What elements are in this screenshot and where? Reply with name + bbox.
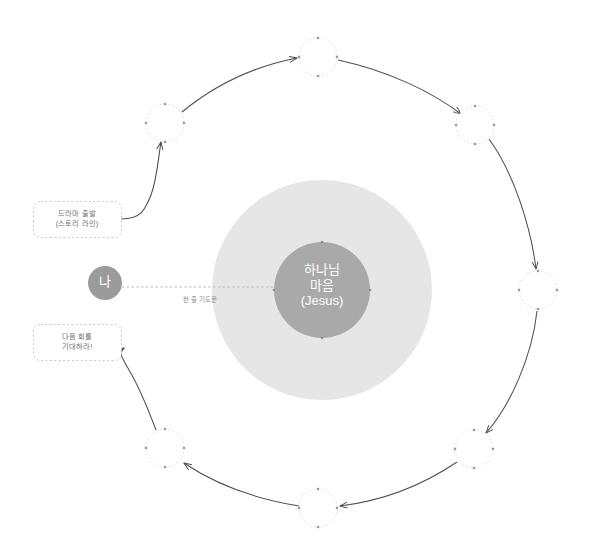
center-anchor-dot-bottom [321, 337, 324, 340]
self-node-circle[interactable] [88, 266, 122, 300]
orbit-node-7[interactable] [145, 428, 186, 469]
diagram-svg [0, 0, 589, 560]
arrow-node6-to-node7 [184, 463, 299, 506]
center-anchor-dot-right [369, 289, 372, 292]
arrow-node5-to-node6 [340, 462, 457, 506]
arrow-node1-to-node2 [182, 58, 297, 112]
arrow-node2-to-node3 [338, 60, 461, 114]
center-anchor-dot-left [273, 289, 276, 292]
center-anchor-dot-top [321, 241, 324, 244]
orbit-node-6[interactable] [298, 488, 339, 529]
orbit-node-2[interactable] [298, 37, 339, 78]
arrow-node3-to-node4 [489, 139, 536, 269]
arrow-callout-to-node1 [121, 142, 161, 219]
center-node-circle[interactable] [274, 242, 370, 338]
orbit-node-4[interactable] [518, 270, 559, 311]
orbit-node-1[interactable] [145, 103, 186, 144]
callout-next-box[interactable] [34, 325, 122, 361]
diagram-canvas: 하나님 마음 (Jesus) 나 한 줄 기도문 드라마 출발 (스토리 라인)… [0, 0, 589, 560]
arrow-node4-to-node5 [486, 311, 537, 433]
arrow-node7-to-callout [121, 348, 156, 430]
callout-start-box[interactable] [34, 202, 122, 238]
orbit-node-5[interactable] [454, 429, 495, 470]
